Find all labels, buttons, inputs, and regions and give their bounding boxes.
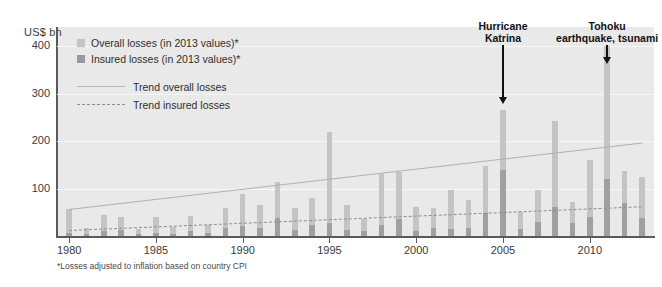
bar-insured-losses	[587, 217, 593, 236]
bar-insured-losses	[639, 218, 645, 236]
bar-insured-losses	[205, 233, 211, 236]
annotation-arrow-icon	[603, 57, 611, 64]
bar-insured-losses	[188, 231, 194, 236]
legend-label-insured: Insured losses (in 2013 values)*	[91, 53, 240, 65]
bar-insured-losses	[500, 170, 506, 237]
legend-label-overall: Overall losses (in 2013 values)*	[91, 37, 239, 49]
bar-insured-losses	[535, 222, 541, 236]
legend-swatch-overall-icon	[77, 39, 85, 47]
x-axis-tick	[416, 237, 417, 243]
annotation-label-line1: Tohoku	[517, 20, 662, 32]
x-axis-tick	[243, 237, 244, 243]
bar-insured-losses	[466, 228, 472, 236]
annotation-label: Tohokuearthquake, tsunami	[517, 20, 662, 44]
x-axis-tick	[503, 237, 504, 243]
legend-item-insured: Insured losses (in 2013 values)*	[77, 51, 240, 66]
bar-insured-losses	[153, 233, 159, 236]
x-tick-label: 2000	[393, 244, 439, 256]
bar-insured-losses	[552, 207, 558, 236]
footnote: *Losses adjusted to inflation based on c…	[57, 261, 247, 271]
bar-insured-losses	[327, 223, 333, 236]
bar-insured-losses	[257, 228, 263, 236]
y-tick-label: 100	[10, 182, 50, 194]
bar-insured-losses	[361, 231, 367, 236]
x-tick-label: 1990	[220, 244, 266, 256]
bar-insured-losses	[66, 233, 72, 236]
bar-insured-losses	[101, 231, 107, 236]
x-axis-tick	[156, 237, 157, 243]
bar-insured-losses	[518, 229, 524, 236]
bar-insured-losses	[118, 230, 124, 236]
annotation-label-line2: earthquake, tsunami	[517, 32, 662, 44]
bar-overall-losses	[327, 132, 333, 236]
bar-insured-losses	[448, 229, 454, 236]
chart-root: US$ bn 100200300400 19801985199019952000…	[0, 0, 662, 287]
bar-insured-losses	[413, 231, 419, 236]
legend-label-trend-overall: Trend overall losses	[133, 81, 227, 93]
legend-series: Overall losses (in 2013 values)* Insured…	[77, 35, 240, 67]
legend-line-overall-icon	[77, 86, 125, 87]
x-tick-label: 1985	[133, 244, 179, 256]
legend-line-insured-icon	[77, 104, 125, 105]
x-axis-tick	[329, 237, 330, 243]
legend-label-trend-insured: Trend insured losses	[133, 99, 230, 111]
legend-item-trend-overall: Trend overall losses	[77, 79, 230, 94]
bar-insured-losses	[292, 230, 298, 236]
legend-item-overall: Overall losses (in 2013 values)*	[77, 35, 240, 50]
y-tick-label: 200	[10, 134, 50, 146]
x-tick-label: 1980	[46, 244, 92, 256]
bar-overall-losses	[66, 209, 72, 236]
bar-insured-losses	[84, 234, 90, 236]
bar-insured-losses	[223, 228, 229, 236]
annotation-pointer-line	[606, 45, 607, 57]
bar-insured-losses	[309, 225, 315, 236]
bar-insured-losses	[344, 230, 350, 236]
legend-trends: Trend overall losses Trend insured losse…	[77, 79, 230, 115]
annotation-pointer-line	[502, 45, 503, 97]
bar-insured-losses	[170, 234, 176, 236]
x-tick-label: 2005	[480, 244, 526, 256]
bar-insured-losses	[379, 225, 385, 236]
x-axis-tick	[69, 237, 70, 243]
annotation-arrow-icon	[499, 97, 507, 104]
y-tick-label: 300	[10, 87, 50, 99]
bar-insured-losses	[570, 223, 576, 236]
x-tick-label: 2010	[567, 244, 613, 256]
x-tick-label: 1995	[306, 244, 352, 256]
x-axis-line	[56, 236, 655, 238]
bar-insured-losses	[240, 226, 246, 236]
x-axis-tick	[590, 237, 591, 243]
bar-insured-losses	[431, 228, 437, 236]
legend-item-trend-insured: Trend insured losses	[77, 97, 230, 112]
bar-insured-losses	[483, 213, 489, 236]
bar-insured-losses	[136, 234, 142, 236]
legend-swatch-insured-icon	[77, 55, 85, 63]
bar-insured-losses	[396, 219, 402, 236]
y-tick-label: 400	[10, 39, 50, 51]
